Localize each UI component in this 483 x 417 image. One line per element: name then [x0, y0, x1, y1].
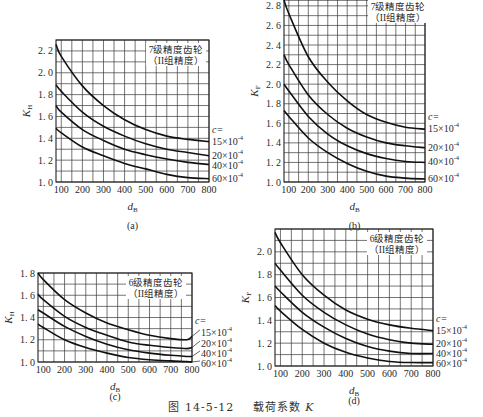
legend-entry: 15×10-4	[212, 134, 244, 147]
y-tick-label: 1. 8	[257, 269, 272, 280]
y-tick-label: 1. 2	[20, 334, 35, 345]
legend-title: c=	[195, 315, 206, 326]
x-tick-labels: 100200300400500600700800	[54, 184, 217, 195]
legend-entry: 60×10-4	[201, 356, 233, 369]
legend-entry: 60×10-4	[436, 356, 468, 369]
chart-title: 7级精度齿轮	[371, 1, 426, 12]
y-tick-label: 1. 8	[38, 89, 53, 100]
x-tick-label: 300	[96, 184, 111, 195]
legend-title: c=	[428, 111, 439, 122]
y-axis-label: KH	[2, 311, 16, 324]
figure-title: 载荷系数	[253, 401, 301, 414]
chart-annotation: 7级精度齿轮（II组精度）	[146, 43, 206, 66]
legend: c=15×10-420×10-440×10-460×10-4	[428, 111, 460, 184]
x-tick-label: 800	[418, 184, 433, 195]
y-tick-label: 1. 2	[38, 155, 53, 166]
svg-text:dB: dB	[349, 200, 360, 214]
y-tick-labels: 1. 01. 21. 41. 61. 82. 0	[257, 246, 272, 371]
y-tick-label: 1. 4	[38, 133, 53, 144]
x-tick-label: 600	[382, 368, 397, 379]
x-tick-label: 200	[301, 184, 316, 195]
y-tick-label: 1. 0	[38, 177, 53, 188]
y-tick-label: 1. 8	[266, 98, 281, 109]
legend-entry: 60×10-4	[212, 171, 244, 184]
chart-title: 6级精度齿轮	[370, 233, 425, 244]
y-tick-label: 1. 0	[266, 177, 281, 188]
y-tick-label: 1. 2	[257, 338, 272, 349]
x-tick-labels: 100200300400500600700800	[273, 368, 441, 379]
figure-caption: 图 14-5-12 载荷系数 K	[0, 398, 483, 414]
svg-text:dB: dB	[127, 200, 138, 214]
panel-label: (b)	[349, 220, 361, 232]
svg-text:KF: KF	[239, 292, 253, 304]
x-tick-label: 700	[404, 368, 419, 379]
chart-title: 6级精度齿轮	[129, 277, 184, 288]
legend: c=15×10-420×10-440×10-460×10-4	[212, 124, 244, 184]
legend-entry: 20×10-4	[428, 140, 460, 153]
chart-b: 1. 01. 21. 41. 61. 82. 02. 22. 42. 62. 8…	[248, 0, 460, 232]
y-tick-label: 2. 8	[266, 0, 281, 11]
chart-c: 1. 01. 21. 41. 61. 810020030040050060070…	[2, 268, 233, 404]
x-tick-label: 700	[163, 364, 178, 375]
series-curve	[38, 294, 192, 349]
x-tick-label: 200	[295, 368, 310, 379]
y-tick-label: 1. 4	[266, 137, 281, 148]
y-tick-label: 1. 8	[20, 268, 35, 279]
series-curve	[56, 106, 209, 165]
legend-title: c=	[436, 313, 447, 324]
y-tick-label: 1. 6	[20, 290, 35, 301]
x-tick-label: 300	[317, 368, 332, 379]
x-tick-labels: 100200300400500600700800	[36, 364, 200, 375]
chart-annotation: 7级精度齿轮（II组精度）	[368, 0, 428, 23]
legend-entry: 15×10-4	[436, 323, 468, 336]
y-tick-labels: 1. 01. 21. 41. 61. 82. 02. 2	[38, 45, 53, 187]
figure-canvas: 1. 01. 21. 41. 61. 82. 02. 2100200300400…	[0, 0, 483, 417]
x-tick-label: 100	[281, 184, 296, 195]
legend: c=15×10-420×10-440×10-460×10-4	[192, 315, 233, 369]
y-tick-labels: 1. 01. 21. 41. 61. 82. 02. 22. 42. 62. 8	[266, 0, 281, 187]
figure-symbol: K	[305, 401, 314, 414]
x-tick-label: 600	[379, 184, 394, 195]
x-tick-label: 800	[185, 364, 200, 375]
chart-a: 1. 01. 21. 41. 61. 82. 02. 2100200300400…	[20, 40, 244, 232]
legend-entry: 15×10-4	[428, 121, 460, 134]
chart-subtitle: （II组精度）	[370, 12, 426, 23]
x-tick-label: 300	[320, 184, 335, 195]
chart-annotation: 6级精度齿轮（II组精度）	[367, 232, 427, 255]
y-tick-label: 1. 6	[38, 111, 53, 122]
x-tick-label: 800	[202, 184, 217, 195]
x-tick-label: 700	[398, 184, 413, 195]
x-tick-label: 300	[78, 364, 93, 375]
y-axis-label: KF	[248, 85, 262, 97]
chart-title: 7级精度齿轮	[149, 44, 204, 55]
series-curve	[275, 263, 433, 344]
y-tick-label: 1. 4	[20, 312, 35, 323]
y-tick-label: 1. 0	[20, 357, 35, 368]
chart-d: 1. 01. 21. 41. 61. 82. 01002003004005006…	[239, 229, 468, 407]
x-tick-label: 200	[75, 184, 90, 195]
panel-label: (a)	[127, 220, 138, 232]
svg-text:KF: KF	[248, 85, 262, 97]
y-tick-label: 2. 0	[257, 246, 272, 257]
y-tick-label: 2. 6	[266, 20, 281, 31]
legend-entry: 40×10-4	[428, 154, 460, 167]
y-tick-label: 2. 2	[38, 45, 53, 56]
x-tick-label: 400	[340, 184, 355, 195]
y-tick-label: 2. 0	[38, 67, 53, 78]
x-tick-label: 400	[117, 184, 132, 195]
y-axis-label: KF	[239, 292, 253, 304]
x-tick-label: 100	[273, 368, 288, 379]
y-tick-label: 2. 0	[266, 79, 281, 90]
legend: c=15×10-420×10-440×10-460×10-4	[436, 313, 468, 370]
legend-entry: 40×10-4	[212, 158, 244, 171]
chart-subtitle: （II组精度）	[148, 55, 204, 66]
y-axis-label: KH	[20, 105, 34, 118]
y-tick-label: 1. 0	[257, 361, 272, 372]
x-tick-label: 600	[142, 364, 157, 375]
x-tick-label: 500	[138, 184, 153, 195]
y-tick-label: 1. 6	[266, 118, 281, 129]
x-tick-labels: 100200300400500600700800	[281, 184, 432, 195]
series-curve	[38, 310, 192, 357]
y-tick-label: 1. 4	[257, 315, 272, 326]
x-tick-label: 600	[159, 184, 174, 195]
